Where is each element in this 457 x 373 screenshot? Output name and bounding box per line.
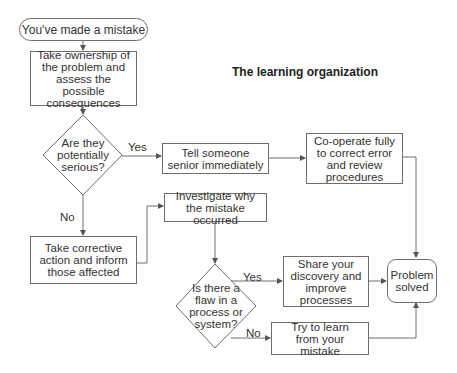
problem-solved-node: Problem solved [387,259,437,303]
flaw-yes-label: Yes [243,271,262,283]
corrective-action-node: Take corrective action and inform those … [30,236,137,284]
learn-node: Try to learn from your mistake [271,322,369,355]
share-discovery-node: Share your discovery and improve process… [283,256,369,307]
ownership-node: Take ownership of the problem and assess… [30,51,137,106]
serious-no-label: No [60,211,75,223]
tell-senior-node: Tell someone senior immediately [162,143,269,174]
start-node: You've made a mistake [19,18,148,41]
investigate-node: Investigate why the mistake occurred [164,193,267,222]
cooperate-node: Co-operate fully to correct error and re… [306,133,403,184]
flaw-decision-node: Is there a flaw in a process or system? [184,281,248,331]
diagram-title: The learning organization [232,65,378,79]
flaw-no-label: No [246,327,261,339]
serious-yes-label: Yes [128,141,147,153]
serious-decision-node: Are they potentially serious? [53,133,113,177]
